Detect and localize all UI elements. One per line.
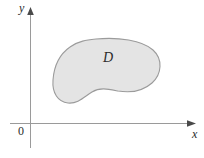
y-axis-label: y <box>19 2 24 14</box>
figure-canvas <box>0 0 204 158</box>
y-axis-arrowhead-icon <box>27 7 34 15</box>
origin-label: 0 <box>18 125 24 137</box>
x-axis-label: x <box>192 128 197 140</box>
math-figure-region-d: y x 0 D <box>0 0 204 158</box>
region-d-label: D <box>103 51 113 65</box>
x-axis-arrowhead-icon <box>187 120 196 127</box>
region-d-shape <box>53 38 160 103</box>
